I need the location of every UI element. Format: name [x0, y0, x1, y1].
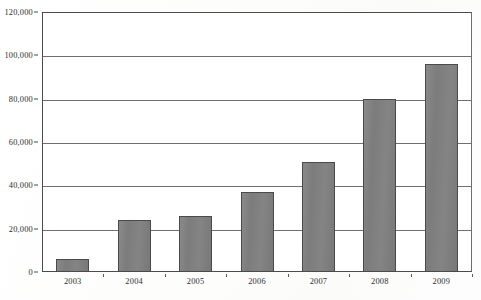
x-axis-tick-label: 2003: [64, 277, 82, 286]
y-axis-tick-mark: [34, 12, 38, 13]
bar-2009: [425, 64, 458, 272]
x-axis-tick-label: 2008: [371, 277, 389, 286]
x-axis-tick-mark: [226, 274, 227, 277]
y-axis-tick-label: 80,000: [9, 94, 33, 103]
bar-group: [56, 12, 89, 272]
bar-series: [42, 12, 472, 272]
x-axis-tick-label: 2005: [187, 277, 205, 286]
bar-2007: [302, 162, 335, 273]
x-axis-tick-label: 2006: [248, 277, 266, 286]
y-axis-tick-mark: [34, 98, 38, 99]
y-axis-tick-label: 60,000: [9, 138, 33, 147]
x-axis: 2003200420052006200720082009: [42, 274, 472, 294]
bar-group: [363, 12, 396, 272]
y-axis: 020,00040,00060,00080,000100,000120,000: [0, 12, 38, 272]
y-axis-tick-label: 0: [29, 268, 33, 277]
x-axis-tick-mark: [103, 274, 104, 277]
y-axis-tick-label: 40,000: [9, 181, 33, 190]
bar-group: [241, 12, 274, 272]
y-axis-tick-mark: [34, 228, 38, 229]
bar-2004: [118, 220, 151, 272]
bar-chart: 020,00040,00060,00080,000100,000120,000 …: [0, 0, 481, 300]
x-axis-tick-mark: [288, 274, 289, 277]
bar-group: [179, 12, 212, 272]
x-axis-tick-mark: [349, 274, 350, 277]
bar-2006: [241, 192, 274, 272]
x-axis-tick-mark: [165, 274, 166, 277]
bar-group: [425, 12, 458, 272]
y-axis-tick-label: 20,000: [9, 224, 33, 233]
x-axis-tick-label: 2007: [310, 277, 328, 286]
y-axis-tick-label: 100,000: [4, 51, 33, 60]
y-axis-tick-mark: [34, 142, 38, 143]
bar-2005: [179, 216, 212, 272]
y-axis-tick-mark: [34, 272, 38, 273]
x-axis-tick-label: 2004: [125, 277, 143, 286]
x-axis-tick-mark: [472, 274, 473, 277]
x-axis-tick-mark: [411, 274, 412, 277]
bar-group: [118, 12, 151, 272]
bar-2008: [363, 99, 396, 272]
bar-2003: [56, 259, 89, 272]
y-axis-tick-mark: [34, 55, 38, 56]
bar-group: [302, 12, 335, 272]
x-axis-tick-label: 2009: [433, 277, 451, 286]
y-axis-tick-mark: [34, 185, 38, 186]
y-axis-tick-label: 120,000: [4, 8, 33, 17]
